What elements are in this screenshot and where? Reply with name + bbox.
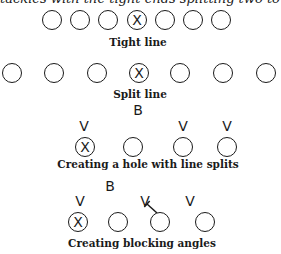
offensive-player-circle-icon xyxy=(217,137,237,157)
back-label: B xyxy=(105,179,115,193)
center-player-x-icon xyxy=(68,212,88,232)
offensive-player-circle-icon xyxy=(213,63,233,83)
offensive-player-circle-icon xyxy=(150,212,170,232)
offensive-player-circle-icon xyxy=(44,63,64,83)
cutoff-body-text: tackles with the tight ends splitting tw… xyxy=(0,0,281,6)
offensive-player-circle-icon xyxy=(70,10,90,30)
offensive-player-circle-icon xyxy=(2,63,22,83)
offensive-player-circle-icon xyxy=(183,10,203,30)
offensive-player-circle-icon xyxy=(108,212,128,232)
diagram-caption: Creating a hole with line splits xyxy=(57,158,238,170)
offensive-player-circle-icon xyxy=(123,137,143,157)
diagram-caption: Tight line xyxy=(109,36,167,48)
diagram-caption: Split line xyxy=(113,88,167,100)
back-label: B xyxy=(133,103,143,117)
defender-v-icon: V xyxy=(75,194,85,208)
defender-v-icon: V xyxy=(140,194,150,208)
offensive-player-circle-icon xyxy=(195,212,215,232)
offensive-player-circle-icon xyxy=(170,63,190,83)
offensive-player-circle-icon xyxy=(98,10,118,30)
defender-v-icon: V xyxy=(79,119,89,133)
diagram-caption: Creating blocking angles xyxy=(68,237,216,249)
defender-v-icon: V xyxy=(185,194,195,208)
offensive-player-circle-icon xyxy=(173,137,193,157)
defender-v-icon: V xyxy=(178,119,188,133)
defender-v-icon: V xyxy=(222,119,232,133)
offensive-player-circle-icon xyxy=(42,10,62,30)
offensive-player-circle-icon xyxy=(256,63,276,83)
center-player-x-icon xyxy=(127,10,147,30)
center-player-x-icon xyxy=(75,137,95,157)
offensive-player-circle-icon xyxy=(155,10,175,30)
center-player-x-icon xyxy=(129,63,149,83)
offensive-player-circle-icon xyxy=(87,63,107,83)
offensive-player-circle-icon xyxy=(211,10,231,30)
